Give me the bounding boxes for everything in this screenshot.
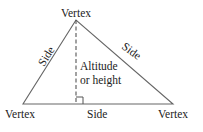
right-vertex-label: Vertex xyxy=(158,108,188,120)
altitude-label-line2: or height xyxy=(80,74,122,87)
right-angle-marker xyxy=(76,97,83,104)
right-side-label: Side xyxy=(120,40,144,62)
triangle-diagram: Vertex Vertex Vertex Side Side Side Alti… xyxy=(0,0,203,132)
left-vertex-label: Vertex xyxy=(5,108,35,120)
top-vertex-label: Vertex xyxy=(61,7,91,19)
bottom-side-label: Side xyxy=(87,108,107,120)
altitude-label-line1: Altitude xyxy=(80,60,118,72)
